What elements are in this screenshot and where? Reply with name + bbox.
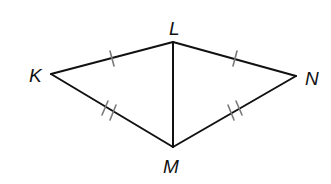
segment-km bbox=[51, 74, 173, 147]
vertex-label-k: K bbox=[29, 65, 43, 86]
vertex-label-n: N bbox=[305, 68, 319, 89]
vertex-label-l: L bbox=[169, 18, 180, 39]
segment-mn bbox=[173, 76, 296, 147]
vertex-label-m: M bbox=[163, 156, 179, 177]
kite-diagram: K L N M bbox=[0, 0, 331, 184]
